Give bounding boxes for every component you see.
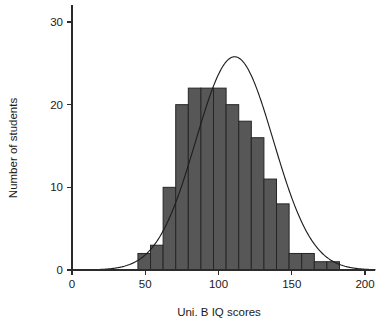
x-axis-title: Uni. B IQ scores: [177, 306, 261, 318]
y-axis-ticks: 0102030: [50, 16, 72, 276]
histogram-bar: [201, 88, 214, 270]
histogram-bar: [251, 138, 264, 270]
y-tick-label: 30: [50, 16, 63, 28]
histogram-bar: [214, 88, 227, 270]
y-tick-label: 20: [50, 99, 63, 111]
chart-canvas: 050100150200 0102030 Uni. B IQ scores Nu…: [0, 0, 391, 327]
histogram-bar: [289, 253, 302, 270]
x-tick-label: 50: [139, 278, 152, 290]
histogram-bar: [327, 262, 340, 270]
x-tick-label: 0: [69, 278, 75, 290]
histogram-bar: [302, 253, 315, 270]
histogram-bars: [138, 88, 340, 270]
histogram-bar: [277, 204, 290, 270]
x-tick-label: 150: [282, 278, 301, 290]
histogram-figure: 050100150200 0102030 Uni. B IQ scores Nu…: [0, 0, 391, 327]
y-tick-label: 0: [57, 264, 63, 276]
histogram-bar: [314, 262, 327, 270]
histogram-bar: [151, 245, 164, 270]
histogram-bar: [226, 105, 239, 270]
x-tick-label: 200: [355, 278, 374, 290]
y-axis-title: Number of students: [7, 98, 19, 199]
histogram-bar: [163, 187, 176, 270]
histogram-bar: [188, 88, 201, 270]
x-axis-ticks: 050100150200: [69, 270, 375, 290]
histogram-bar: [176, 105, 189, 270]
histogram-bar: [239, 121, 252, 270]
x-tick-label: 100: [209, 278, 228, 290]
y-tick-label: 10: [50, 181, 63, 193]
histogram-bar: [264, 179, 277, 270]
